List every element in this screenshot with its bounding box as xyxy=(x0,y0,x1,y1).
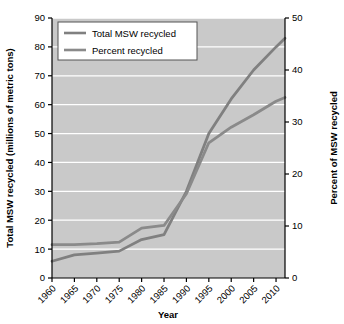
y-right-tick-label: 20 xyxy=(292,168,303,179)
y-left-axis-title: Total MSW recycled (millions of metric t… xyxy=(4,48,15,247)
y-right-tick-label: 30 xyxy=(292,116,303,127)
recycling-line-chart: 0102030405060708090 01020304050 19601965… xyxy=(0,0,344,324)
y-left-tick-label: 20 xyxy=(34,215,45,226)
y-left-tick-label: 70 xyxy=(34,70,45,81)
y-left-tick-label: 80 xyxy=(34,41,45,52)
y-right-tick-label: 0 xyxy=(292,272,297,283)
y-right-tick-label: 40 xyxy=(292,64,303,75)
y-left-tick-label: 90 xyxy=(34,12,45,23)
y-left-tick-label: 0 xyxy=(40,272,45,283)
y-left-tick-label: 40 xyxy=(34,157,45,168)
y-right-axis-title: Percent of MSW recycled xyxy=(328,91,339,205)
y-left-tick-label: 30 xyxy=(34,186,45,197)
y-left-tick-label: 60 xyxy=(34,99,45,110)
chart-figure: 0102030405060708090 01020304050 19601965… xyxy=(0,0,344,324)
x-axis-title: Year xyxy=(158,309,178,320)
y-right-tick-label: 10 xyxy=(292,220,303,231)
y-right-tick-label: 50 xyxy=(292,12,303,23)
y-left-tick-label: 10 xyxy=(34,244,45,255)
legend-label-percent-recycled: Percent recycled xyxy=(92,45,163,56)
legend-label-total-msw-recycled: Total MSW recycled xyxy=(92,28,176,39)
y-left-tick-label: 50 xyxy=(34,128,45,139)
chart-legend: Total MSW recycled Percent recycled xyxy=(58,22,197,60)
